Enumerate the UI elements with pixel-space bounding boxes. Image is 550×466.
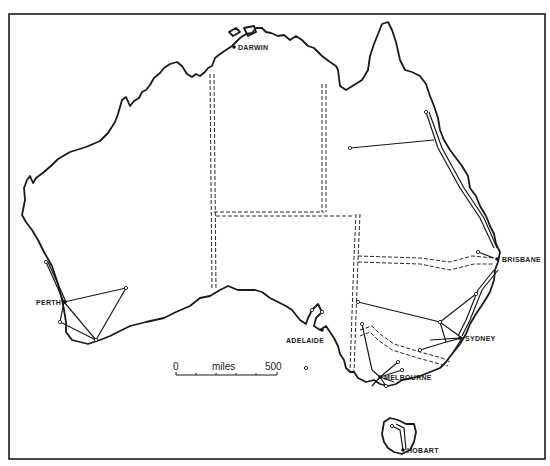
scale-start-label: 0: [173, 361, 179, 372]
mainland-coastline: [22, 22, 500, 386]
city-label-darwin: DARWIN: [238, 44, 268, 51]
scale-bar: 0 miles 500: [173, 361, 282, 375]
melville-island: [229, 28, 240, 36]
australia-map: DARWIN BRISBANE SYDNEY MELBOURNE ADELAID…: [0, 0, 550, 466]
city-label-perth: PERTH: [36, 299, 61, 306]
scale-end-label: 500: [265, 361, 282, 372]
city-label-hobart: HOBART: [407, 447, 439, 454]
city-label-brisbane: BRISBANE: [502, 256, 541, 263]
map-frame: [9, 14, 545, 459]
city-label-adelaide: ADELAIDE: [286, 337, 324, 344]
routes: [46, 112, 498, 450]
state-borders: [210, 74, 494, 372]
city-label-melbourne: MELBOURNE: [384, 374, 432, 381]
scale-unit-label: miles: [212, 361, 235, 372]
city-label-sydney: SYDNEY: [465, 335, 496, 342]
